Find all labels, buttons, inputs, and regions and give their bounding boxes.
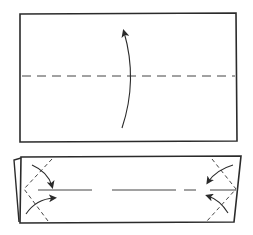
origami-diagram	[0, 0, 253, 235]
step-1-paper	[20, 13, 237, 142]
